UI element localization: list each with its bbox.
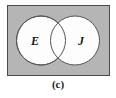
figure-caption: (c): [0, 78, 116, 91]
set-label-e: E: [30, 34, 39, 48]
set-label-j: J: [77, 34, 85, 48]
venn-diagram-figure: E J (c): [0, 0, 116, 98]
